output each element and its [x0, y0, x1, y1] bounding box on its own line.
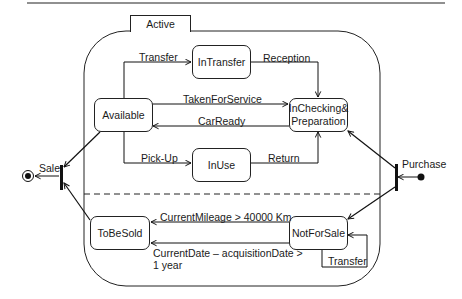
label-purchase: Purchase: [402, 158, 446, 170]
label-pick-up: Pick-Up: [141, 152, 178, 164]
state-notforsale: NotForSale: [289, 216, 348, 250]
label-return: Return: [268, 152, 300, 164]
label-current-date-line2: 1 year: [153, 259, 182, 271]
label-current-date-line1: CurrentDate – acquisitionDate >: [153, 247, 303, 259]
state-intransfer: InTransfer: [192, 45, 251, 79]
label-car-ready: CarReady: [198, 115, 245, 127]
active-tab: Active: [130, 15, 191, 32]
purchase-fork-bar: [395, 164, 398, 191]
sale-join-bar: [60, 165, 63, 190]
state-available: Available: [94, 98, 153, 132]
tobesold-to-join: [64, 183, 90, 220]
state-tobesold: ToBeSold: [90, 216, 150, 250]
label-reception: Reception: [263, 52, 310, 64]
label-current-mileage: CurrentMileage > 40000 Km: [160, 211, 292, 223]
initial-state-icon: [418, 174, 425, 181]
fork-to-notforsale: [348, 187, 395, 219]
label-transfer-self: Transfer: [328, 255, 367, 267]
state-inchecking-line1: InChecking&: [289, 102, 349, 115]
label-taken-for-service: TakenForService: [183, 93, 262, 105]
transition-reception: [251, 62, 318, 97]
label-sale: Sale: [39, 162, 60, 174]
fork-to-inchecking: [348, 131, 395, 168]
transition-transfer: [124, 62, 191, 98]
state-inuse: InUse: [192, 148, 251, 182]
state-inchecking-line2: Preparation: [291, 115, 345, 128]
available-to-join: [64, 132, 100, 167]
state-inchecking-preparation: InChecking& Preparation: [289, 98, 348, 132]
label-transfer: Transfer: [139, 51, 178, 63]
